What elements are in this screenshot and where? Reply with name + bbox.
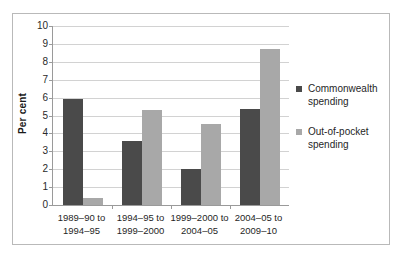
bar bbox=[240, 109, 260, 205]
y-axis-tick-label: 1 bbox=[30, 182, 48, 192]
legend-label-line: Out-of-pocket bbox=[308, 126, 392, 139]
legend-label-line: Commonwealth bbox=[308, 83, 392, 96]
y-axis-tick-label: 3 bbox=[30, 146, 48, 156]
x-axis-category-label: 1989–90 to1994–95 bbox=[48, 212, 116, 237]
y-axis-tick-label: 0 bbox=[30, 200, 48, 210]
y-axis-tick-label: 4 bbox=[30, 128, 48, 138]
y-axis-tick-label: 5 bbox=[30, 111, 48, 121]
x-axis-category-label-line: 2009–10 bbox=[225, 225, 293, 238]
legend-entry[interactable]: Commonwealthspending bbox=[296, 83, 392, 108]
y-axis-tick-label: 10 bbox=[30, 21, 48, 31]
legend-swatch-icon bbox=[296, 129, 302, 135]
legend-label-line: spending bbox=[308, 139, 392, 152]
legend-entry[interactable]: Out-of-pocketspending bbox=[296, 126, 392, 151]
bar-series-group bbox=[53, 26, 289, 205]
x-axis-category-label-line: 1999–2000 to bbox=[166, 212, 234, 225]
y-axis-tick-labels: 109876543210 bbox=[30, 20, 48, 211]
x-axis-tick-mark bbox=[171, 205, 172, 209]
x-axis-category-label: 2004–05 to2009–10 bbox=[225, 212, 293, 237]
legend-label: Commonwealthspending bbox=[308, 83, 392, 108]
bar bbox=[260, 49, 280, 205]
y-axis-tick-mark bbox=[49, 205, 53, 206]
legend-label: Out-of-pocketspending bbox=[308, 126, 392, 151]
x-axis-category-label-line: 1994–95 bbox=[48, 225, 116, 238]
legend-swatch-icon bbox=[296, 86, 302, 92]
y-axis-tick-label: 7 bbox=[30, 75, 48, 85]
x-axis-tick-mark bbox=[230, 205, 231, 209]
legend-label-line: spending bbox=[308, 96, 392, 109]
x-axis-category-label: 1994–95 to1999–2000 bbox=[107, 212, 175, 237]
x-axis-category-label-line: 1994–95 to bbox=[107, 212, 175, 225]
x-axis-category-labels: 1989–90 to1994–951994–95 to1999–20001999… bbox=[40, 212, 302, 242]
y-axis-tick-label: 9 bbox=[30, 39, 48, 49]
x-axis-category-label-line: 2004–05 bbox=[166, 225, 234, 238]
chart-legend: CommonwealthspendingOut-of-pocketspendin… bbox=[296, 83, 392, 169]
bar bbox=[142, 110, 162, 205]
bar bbox=[83, 198, 103, 205]
x-axis-category-label-line: 2004–05 to bbox=[225, 212, 293, 225]
x-axis-category-label: 1999–2000 to2004–05 bbox=[166, 212, 234, 237]
bar bbox=[201, 124, 221, 205]
bar bbox=[181, 169, 201, 205]
bar bbox=[122, 141, 142, 205]
x-axis-tick-mark bbox=[112, 205, 113, 209]
y-axis-tick-label: 6 bbox=[30, 93, 48, 103]
chart-figure: Per cent 109876543210 1989–90 to1994–951… bbox=[0, 0, 402, 259]
bar bbox=[63, 99, 83, 205]
y-axis-tick-label: 2 bbox=[30, 164, 48, 174]
y-axis-title-text: Per cent bbox=[18, 92, 29, 133]
x-axis-category-label-line: 1989–90 to bbox=[48, 212, 116, 225]
y-axis-tick-label: 8 bbox=[30, 57, 48, 67]
x-axis-category-label-line: 1999–2000 bbox=[107, 225, 175, 238]
plot-area bbox=[52, 26, 289, 206]
